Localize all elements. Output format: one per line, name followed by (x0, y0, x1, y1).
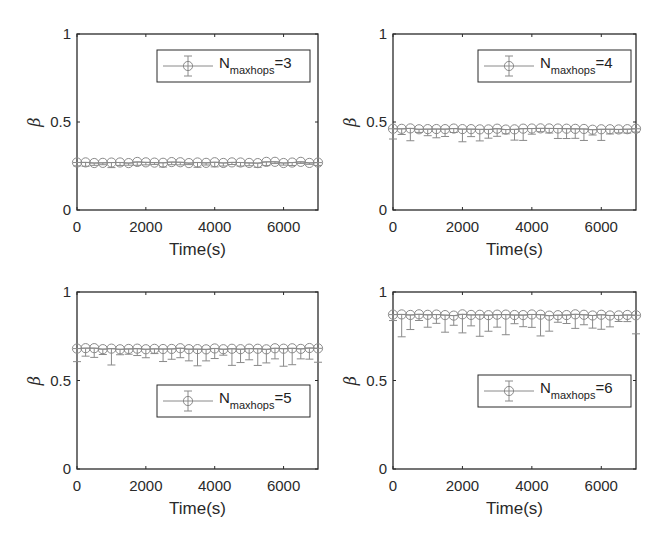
x-tick-label: 2000 (129, 218, 162, 235)
y-tick-label: 1 (379, 25, 387, 42)
subplot-top-right: 020004000600000.51Time(s)βNmaxhops=4 (341, 25, 641, 259)
x-tick-label: 6000 (267, 218, 300, 235)
legend: Nmaxhops=5 (157, 385, 310, 417)
x-tick-label: 6000 (585, 477, 618, 494)
legend: Nmaxhops=6 (478, 375, 631, 407)
x-axis-label: Time(s) (486, 499, 543, 518)
x-axis-label: Time(s) (169, 240, 226, 259)
x-tick-label: 4000 (515, 477, 548, 494)
x-tick-label: 2000 (446, 218, 479, 235)
y-tick-label: 1 (379, 283, 387, 300)
x-tick-label: 4000 (515, 218, 548, 235)
y-axis-label: β (25, 376, 44, 386)
y-tick-label: 0.5 (366, 372, 387, 389)
subplot-bottom-left: 020004000600000.51Time(s)βNmaxhops=5 (25, 283, 323, 518)
y-tick-label: 0 (379, 201, 387, 218)
y-tick-label: 0.5 (50, 372, 71, 389)
x-tick-label: 0 (73, 477, 81, 494)
legend: Nmaxhops=4 (478, 50, 631, 82)
x-tick-label: 6000 (585, 218, 618, 235)
plot-area (77, 292, 318, 469)
y-axis-label: β (341, 117, 360, 127)
y-tick-label: 1 (63, 25, 71, 42)
x-axis-label: Time(s) (486, 240, 543, 259)
x-tick-label: 2000 (446, 477, 479, 494)
figure: 020004000600000.51Time(s)βNmaxhops=30200… (0, 0, 661, 552)
x-tick-label: 2000 (129, 477, 162, 494)
y-tick-label: 0.5 (366, 113, 387, 130)
y-axis-label: β (25, 117, 44, 127)
y-tick-label: 1 (63, 283, 71, 300)
y-tick-label: 0 (63, 460, 71, 477)
subplot-top-left: 020004000600000.51Time(s)βNmaxhops=3 (25, 25, 323, 259)
x-tick-label: 6000 (267, 477, 300, 494)
x-tick-label: 0 (73, 218, 81, 235)
subplot-bottom-right: 020004000600000.51Time(s)βNmaxhops=6 (341, 283, 641, 518)
y-tick-label: 0 (63, 201, 71, 218)
y-tick-label: 0.5 (50, 113, 71, 130)
x-tick-label: 0 (389, 218, 397, 235)
y-tick-label: 0 (379, 460, 387, 477)
y-axis-label: β (341, 376, 360, 386)
x-axis-label: Time(s) (169, 499, 226, 518)
x-tick-label: 4000 (198, 477, 231, 494)
x-tick-label: 0 (389, 477, 397, 494)
legend: Nmaxhops=3 (157, 50, 310, 82)
x-tick-label: 4000 (198, 218, 231, 235)
